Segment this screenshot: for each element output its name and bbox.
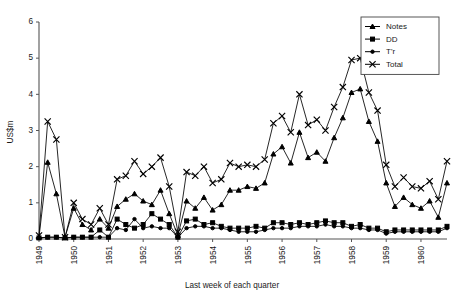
data-point-marker [141, 223, 145, 227]
data-point-marker [324, 223, 327, 226]
y-tick-label: 6 [28, 17, 33, 26]
data-point-marker [124, 223, 128, 227]
chart-figure: 0123456 19491950195119521953195419551956… [0, 0, 451, 299]
y-axis: 0123456 [28, 17, 39, 243]
x-tick-label: 1955 [244, 246, 253, 265]
data-point-marker [201, 195, 206, 200]
data-point-marker [159, 217, 163, 221]
data-point-marker [332, 225, 335, 228]
data-point-marker [314, 117, 320, 123]
data-point-marker [349, 90, 354, 95]
data-point-marker [271, 221, 275, 225]
data-point-marker [150, 212, 154, 216]
data-point-marker [115, 226, 118, 229]
data-point-marker [444, 158, 450, 164]
data-point-marker [192, 173, 198, 179]
data-point-marker [141, 226, 144, 229]
data-point-marker [445, 226, 448, 229]
x-tick-label: 1949 [35, 246, 44, 265]
y-tick-label: 2 [28, 162, 33, 171]
x-axis: 1949195019511952195319541955195619571958… [35, 239, 447, 264]
data-point-marker [366, 119, 371, 124]
data-point-marker [123, 173, 129, 179]
data-point-marker [314, 150, 319, 155]
data-point-marker [254, 224, 258, 228]
data-point-marker [371, 37, 375, 41]
data-point-marker [236, 164, 242, 170]
legend-label: DD [386, 35, 398, 44]
data-point-marker [81, 235, 84, 238]
data-point-marker [236, 188, 241, 193]
data-point-marker [157, 155, 163, 161]
data-point-marker [358, 86, 363, 91]
legend-label: T'r [386, 47, 395, 56]
data-point-marker [193, 217, 197, 221]
data-point-marker [272, 226, 275, 229]
x-tick-label: 1960 [417, 246, 426, 265]
data-point-marker [246, 230, 249, 233]
data-point-marker [348, 57, 354, 63]
x-tick-label: 1958 [348, 246, 357, 265]
data-point-marker [159, 226, 162, 229]
line-chart: 0123456 19491950195119521953195419551956… [0, 0, 451, 299]
data-point-marker [211, 221, 215, 225]
data-point-marker [80, 222, 85, 227]
data-point-marker [168, 226, 171, 229]
data-point-marker [133, 217, 136, 220]
data-point-marker [210, 180, 216, 186]
data-point-marker [409, 183, 415, 189]
data-point-marker [185, 226, 188, 229]
data-point-marker [288, 129, 294, 135]
data-point-marker [115, 217, 119, 221]
x-tick-label: 1953 [174, 246, 183, 265]
y-tick-label: 4 [28, 90, 33, 99]
data-point-marker [97, 205, 103, 211]
data-point-marker [358, 223, 362, 227]
data-point-marker [315, 225, 318, 228]
data-point-marker [289, 223, 293, 227]
data-point-marker [219, 202, 224, 207]
data-point-marker [315, 221, 319, 225]
x-tick-label: 1959 [382, 246, 391, 265]
data-point-marker [98, 235, 101, 238]
data-point-marker [306, 225, 309, 228]
data-point-marker [227, 188, 232, 193]
y-tick-label: 3 [28, 126, 33, 135]
x-tick-label: 1956 [278, 246, 287, 265]
data-point-marker [167, 211, 172, 216]
data-point-marker [393, 230, 396, 233]
series-total [36, 55, 450, 240]
data-point-marker [332, 135, 337, 140]
data-point-marker [297, 221, 301, 225]
data-point-marker [400, 174, 406, 180]
data-point-marker [185, 219, 189, 223]
data-point-marker [428, 230, 431, 233]
data-point-marker [244, 162, 250, 168]
data-point-marker [358, 226, 361, 229]
data-point-marker [124, 228, 127, 231]
y-tick-label: 1 [28, 198, 33, 207]
x-tick-label: 1957 [313, 246, 322, 265]
data-point-marker [376, 228, 379, 231]
data-series-group [36, 55, 450, 240]
data-point-marker [366, 89, 372, 95]
data-point-marker [245, 184, 250, 189]
data-point-marker [158, 188, 163, 193]
data-point-marker [340, 84, 346, 90]
data-point-marker [227, 160, 233, 166]
data-point-marker [305, 122, 311, 128]
data-point-marker [176, 235, 179, 238]
data-point-marker [280, 226, 283, 229]
data-point-marker [306, 155, 311, 160]
data-point-marker [149, 164, 155, 170]
data-point-marker [237, 230, 240, 233]
data-point-marker [350, 226, 353, 229]
data-point-marker [184, 199, 189, 204]
data-point-marker [254, 230, 257, 233]
data-point-marker [89, 235, 92, 238]
data-point-marker [253, 164, 259, 170]
data-point-marker [437, 230, 440, 233]
data-point-marker [371, 50, 374, 53]
data-point-marker [123, 197, 128, 202]
data-point-marker [427, 178, 433, 184]
